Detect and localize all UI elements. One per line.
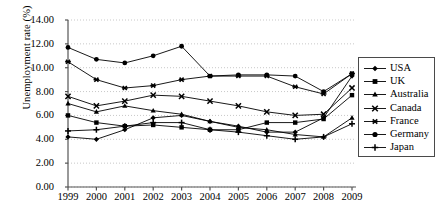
legend-item-usa[interactable]: USA xyxy=(362,61,429,74)
series-australia xyxy=(65,101,354,139)
x-tick-label: 2009 xyxy=(332,191,372,202)
marker-plus xyxy=(93,127,99,133)
legend-item-canada[interactable]: Canada xyxy=(362,101,429,114)
marker-circle xyxy=(293,74,298,79)
marker-diamond xyxy=(94,137,99,142)
marker-square xyxy=(293,120,297,124)
plus-icon xyxy=(362,140,388,153)
marker-asterisk xyxy=(122,86,128,90)
legend-label: Australia xyxy=(388,87,429,100)
marker-plus xyxy=(264,133,270,139)
marker-square xyxy=(350,93,354,97)
legend-item-japan[interactable]: Japan xyxy=(362,140,429,153)
marker-plus xyxy=(179,120,185,126)
triangle-icon xyxy=(362,87,388,100)
marker-asterisk xyxy=(94,78,100,82)
marker-plus xyxy=(372,144,378,150)
marker-plus xyxy=(65,128,71,134)
legend-label: USA xyxy=(388,61,411,74)
marker-asterisk xyxy=(372,119,378,123)
marker-square xyxy=(94,120,98,124)
marker-plus xyxy=(321,134,327,140)
legend-item-australia[interactable]: Australia xyxy=(362,87,429,100)
marker-square xyxy=(66,113,70,117)
diamond-icon xyxy=(362,61,388,74)
marker-square xyxy=(265,120,269,124)
legend-label: Japan xyxy=(388,140,414,153)
marker-circle xyxy=(264,72,269,77)
marker-square xyxy=(179,125,183,129)
marker-circle xyxy=(179,44,184,49)
marker-asterisk xyxy=(179,78,185,82)
marker-plus xyxy=(292,136,298,142)
legend-label: Germany xyxy=(388,127,429,140)
marker-circle xyxy=(66,45,71,50)
legend-label: Canada xyxy=(388,101,422,114)
series-canada xyxy=(65,85,354,118)
marker-circle xyxy=(350,71,355,76)
marker-circle xyxy=(321,89,326,94)
marker-cross xyxy=(349,85,354,90)
cross-icon xyxy=(362,101,388,114)
marker-circle xyxy=(372,132,377,137)
marker-circle xyxy=(122,61,127,66)
legend-label: France xyxy=(388,114,419,127)
marker-asterisk xyxy=(292,85,298,89)
marker-triangle xyxy=(65,101,70,106)
series-germany xyxy=(66,44,355,94)
square-icon xyxy=(362,74,388,87)
legend-item-uk[interactable]: UK xyxy=(362,74,429,87)
circle-icon xyxy=(362,127,388,140)
chart-legend: USAUKAustraliaCanadaFranceGermanyJapan xyxy=(358,57,435,157)
marker-circle xyxy=(236,72,241,77)
legend-item-germany[interactable]: Germany xyxy=(362,127,429,140)
marker-plus xyxy=(349,121,355,127)
unemployment-rate-line-chart: Unemployment rate (%) 0.002.004.006.008.… xyxy=(0,0,443,222)
asterisk-icon xyxy=(362,114,388,127)
marker-circle xyxy=(151,53,156,58)
series-uk xyxy=(66,93,354,132)
marker-circle xyxy=(208,74,213,79)
marker-asterisk xyxy=(150,84,156,88)
marker-circle xyxy=(94,57,99,62)
marker-square xyxy=(373,79,378,84)
legend-label: UK xyxy=(388,74,405,87)
legend-item-france[interactable]: France xyxy=(362,114,429,127)
marker-diamond xyxy=(372,66,378,72)
marker-square xyxy=(321,117,325,121)
